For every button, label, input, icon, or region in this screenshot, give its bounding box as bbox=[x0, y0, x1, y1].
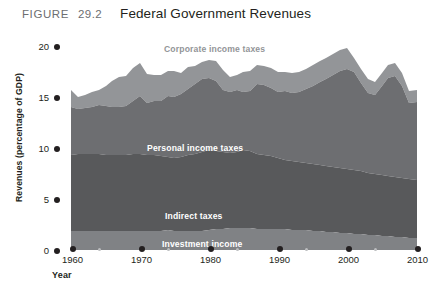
x-tick-2010: 2010 bbox=[407, 246, 428, 265]
series-label-personal: Personal income taxes bbox=[147, 143, 243, 153]
y-tick-label-5: 5 bbox=[44, 195, 49, 205]
x-tick-dot-2000 bbox=[346, 246, 352, 252]
y-tick-dot-20 bbox=[54, 44, 60, 50]
chart-svg bbox=[71, 45, 417, 250]
x-tick-dot-1970 bbox=[139, 246, 145, 252]
x-tick-label-1980: 1980 bbox=[200, 255, 221, 265]
figure-title: Federal Government Revenues bbox=[120, 6, 311, 21]
series-label-indirect: Indirect taxes bbox=[165, 211, 223, 221]
x-tick-1990: 1990 bbox=[269, 246, 290, 265]
y-tick-dot-15 bbox=[54, 95, 60, 101]
y-tick-dot-10 bbox=[54, 146, 60, 152]
y-tick-label-15: 15 bbox=[38, 93, 49, 103]
stacked-area-plot: Corporate income taxes Personal income t… bbox=[71, 45, 417, 250]
x-tick-dot-1980 bbox=[208, 246, 214, 252]
y-tick-label-20: 20 bbox=[38, 42, 49, 52]
x-minor-tick-1975 bbox=[167, 248, 170, 251]
y-tick-15: 15 bbox=[12, 93, 60, 103]
x-minor-tick-1985 bbox=[236, 248, 239, 251]
y-axis-title: Revenues (percentage of GDP) bbox=[14, 35, 24, 240]
figure-number: 29.2 bbox=[78, 8, 102, 20]
x-tick-dot-2010 bbox=[415, 246, 421, 252]
y-tick-label-0: 0 bbox=[44, 246, 49, 256]
x-tick-label-1970: 1970 bbox=[131, 255, 152, 265]
x-tick-label-1960: 1960 bbox=[62, 255, 83, 265]
x-tick-1980: 1980 bbox=[200, 246, 221, 265]
series-label-corporate: Corporate income taxes bbox=[164, 44, 265, 54]
y-tick-5: 5 bbox=[12, 195, 60, 205]
x-tick-2000: 2000 bbox=[338, 246, 359, 265]
x-minor-tick-1965 bbox=[98, 248, 101, 251]
figure-container: FIGURE 29.2 Federal Government Revenues … bbox=[0, 0, 442, 295]
x-tick-1970: 1970 bbox=[131, 246, 152, 265]
y-tick-label-10: 10 bbox=[38, 144, 49, 154]
x-tick-label-1990: 1990 bbox=[269, 255, 290, 265]
x-minor-tick-2005 bbox=[374, 248, 377, 251]
x-axis-title: Year bbox=[52, 270, 72, 280]
y-tick-dot-5 bbox=[54, 197, 60, 203]
x-tick-label-2000: 2000 bbox=[338, 255, 359, 265]
y-tick-dot-0 bbox=[54, 248, 60, 254]
y-tick-10: 10 bbox=[12, 144, 60, 154]
figure-title-bar: FIGURE 29.2 Federal Government Revenues bbox=[22, 6, 311, 21]
x-tick-label-2010: 2010 bbox=[407, 255, 428, 265]
y-tick-20: 20 bbox=[12, 42, 60, 52]
figure-label: FIGURE bbox=[22, 8, 69, 20]
x-minor-tick-1995 bbox=[305, 248, 308, 251]
x-tick-dot-1960 bbox=[70, 246, 76, 252]
x-tick-dot-1990 bbox=[277, 246, 283, 252]
y-tick-0: 0 bbox=[12, 246, 60, 256]
x-tick-1960: 1960 bbox=[62, 246, 83, 265]
